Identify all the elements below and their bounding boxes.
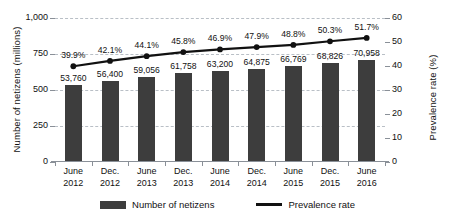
line-value-label: 44.1% — [134, 40, 158, 50]
x-axis-category-label: June2013 — [137, 166, 157, 189]
chart-container: Number of netizens (millions) Prevalence… — [0, 0, 455, 223]
x-axis-label-line: Dec. — [247, 166, 267, 178]
legend-label: Prevalence rate — [288, 199, 355, 210]
line-marker — [70, 63, 76, 69]
line-marker — [107, 58, 113, 64]
y-axis-right-tick-label: 40 — [392, 60, 426, 70]
x-tick — [348, 162, 349, 166]
line-value-label: 42.1% — [98, 45, 122, 55]
legend-bar-swatch-icon — [100, 201, 126, 209]
y-axis-right-tick-label: 0 — [392, 156, 426, 166]
x-axis-label-line: June — [283, 166, 303, 178]
line-value-label: 45.8% — [171, 36, 195, 46]
y-axis-right-tick-label: 10 — [392, 132, 426, 142]
y-axis-left-tick-label: 750 — [6, 48, 48, 58]
x-axis-label-line: Dec. — [100, 166, 120, 178]
x-axis-label-line: 2014 — [247, 178, 267, 190]
x-axis-category-label: June2012 — [63, 166, 83, 189]
x-axis-label-line: June — [357, 166, 377, 178]
y-axis-left-tick-label: 0 — [6, 156, 48, 166]
x-axis-label-line: 2012 — [100, 178, 120, 190]
line-marker — [217, 47, 223, 53]
line-value-label: 46.9% — [208, 33, 232, 43]
x-tick — [385, 162, 386, 166]
x-axis-label-line: 2016 — [357, 178, 377, 190]
y-axis-left-tick-label: 250 — [6, 120, 48, 130]
line-marker — [180, 49, 186, 55]
x-axis-category-label: Dec.2014 — [247, 166, 267, 189]
x-tick — [92, 162, 93, 166]
y-axis-left-tick-label: 1,000 — [6, 12, 48, 22]
x-axis-label-line: 2014 — [210, 178, 230, 190]
y-tick-right — [385, 42, 390, 43]
legend-item: Number of netizens — [100, 199, 214, 210]
y-axis-left-tick-label: 500 — [6, 84, 48, 94]
line-marker — [290, 42, 296, 48]
line-marker — [254, 44, 260, 50]
y-tick-right — [385, 66, 390, 67]
y-axis-right-tick-label: 50 — [392, 36, 426, 46]
line-marker — [327, 38, 333, 44]
x-axis-category-label: June2016 — [357, 166, 377, 189]
x-axis-label-line: 2015 — [283, 178, 303, 190]
y-tick-right — [385, 138, 390, 139]
legend-label: Number of netizens — [132, 199, 214, 210]
line-value-label: 47.9% — [244, 31, 268, 41]
y-axis-right-tick-label: 20 — [392, 108, 426, 118]
x-axis-label-line: 2015 — [320, 178, 340, 190]
x-tick — [128, 162, 129, 166]
x-tick — [238, 162, 239, 166]
x-axis-category-label: Dec.2015 — [320, 166, 340, 189]
line-value-label: 39.9% — [61, 50, 85, 60]
x-axis-label-line: Dec. — [320, 166, 340, 178]
y-tick-right — [385, 18, 390, 19]
plot-area: 02505007501,000 0102030405060 53,76056,4… — [55, 18, 385, 162]
x-axis-label-line: 2013 — [137, 178, 157, 190]
x-axis-category-label: June2015 — [283, 166, 303, 189]
x-axis-category-label: Dec.2013 — [173, 166, 193, 189]
y-tick-right — [385, 90, 390, 91]
x-axis-label-line: 2013 — [173, 178, 193, 190]
x-tick — [275, 162, 276, 166]
x-axis-label-line: June — [210, 166, 230, 178]
y-axis-right-tick-label: 30 — [392, 84, 426, 94]
x-tick — [202, 162, 203, 166]
line-marker — [364, 35, 370, 41]
y-axis-right-tick-label: 60 — [392, 12, 426, 22]
x-tick — [55, 162, 56, 166]
x-axis-label-line: June — [137, 166, 157, 178]
line-value-label: 48.8% — [281, 29, 305, 39]
y-tick-right — [385, 114, 390, 115]
legend-line-swatch-icon — [256, 203, 282, 206]
x-axis-line — [51, 161, 389, 162]
x-tick — [312, 162, 313, 166]
x-axis-category-label: June2014 — [210, 166, 230, 189]
x-axis-category-label: Dec.2012 — [100, 166, 120, 189]
chart-legend: Number of netizensPrevalence rate — [0, 199, 455, 210]
line-marker — [144, 53, 150, 59]
x-axis-label-line: 2012 — [63, 178, 83, 190]
line-value-label: 50.3% — [318, 25, 342, 35]
x-axis-label-line: June — [63, 166, 83, 178]
legend-item: Prevalence rate — [256, 199, 355, 210]
x-axis-label-line: Dec. — [173, 166, 193, 178]
line-value-label: 51.7% — [354, 22, 378, 32]
x-tick — [165, 162, 166, 166]
y-axis-right-title: Prevalence rate (%) — [427, 38, 438, 158]
